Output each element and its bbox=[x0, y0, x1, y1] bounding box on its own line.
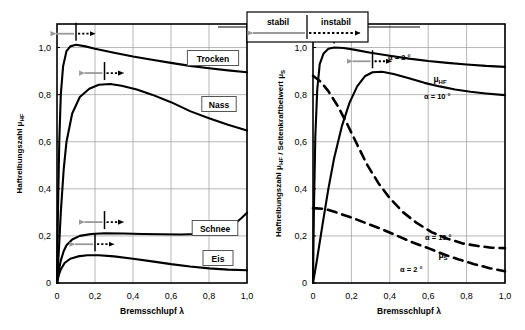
x-tick-label: 1,0 bbox=[499, 291, 512, 301]
x-axis-title: Bremsschlupf λ bbox=[377, 306, 441, 316]
quantity-label-mus: μS bbox=[438, 250, 447, 261]
y-tick-label: 0,2 bbox=[294, 231, 307, 241]
y-axis-title: Haftreibungszahl μHF bbox=[15, 113, 25, 193]
y-tick-label: 1,0 bbox=[38, 43, 51, 53]
series-label-eis: Eis bbox=[212, 254, 225, 264]
y-tick-label: 0,6 bbox=[38, 137, 51, 147]
y-tick-label: 0 bbox=[302, 278, 307, 288]
y-tick-label: 0,8 bbox=[38, 90, 51, 100]
x-tick-label: 0,2 bbox=[89, 291, 102, 301]
x-tick-label: 0,4 bbox=[384, 291, 397, 301]
series-label-schnee: Schnee bbox=[200, 224, 231, 234]
legend-unstable-label: instabil bbox=[321, 17, 351, 27]
tire-friction-slip-figure: 00,20,40,60,81,000,20,40,60,81,0Bremssch… bbox=[0, 0, 525, 330]
x-tick-label: 1,0 bbox=[241, 291, 254, 301]
x-tick-label: 0,6 bbox=[422, 291, 435, 301]
curve--s-10- bbox=[313, 76, 505, 248]
y-tick-label: 1,0 bbox=[294, 43, 307, 53]
y-tick-label: 0 bbox=[46, 278, 51, 288]
x-tick-label: 0,8 bbox=[460, 291, 473, 301]
x-axis-title: Bremsschlupf λ bbox=[120, 306, 184, 316]
series-label-trocken: Trocken bbox=[197, 54, 230, 64]
left-panel: 00,20,40,60,81,000,20,40,60,81,0Bremssch… bbox=[15, 23, 253, 316]
curve--hf-10- bbox=[313, 72, 505, 283]
x-tick-label: 0 bbox=[310, 291, 315, 301]
x-tick-label: 0,8 bbox=[203, 291, 216, 301]
series-label-alpha-10-muhf: α = 10 ° bbox=[424, 92, 451, 101]
y-tick-label: 0,2 bbox=[38, 231, 51, 241]
series-label-nass: Nass bbox=[209, 100, 230, 110]
right-panel: 00,20,40,60,81,000,20,40,60,81,0Bremssch… bbox=[274, 24, 511, 316]
figure-root: 00,20,40,60,81,000,20,40,60,81,0Bremssch… bbox=[0, 0, 525, 330]
x-tick-label: 0,6 bbox=[165, 291, 178, 301]
y-axis-title: Haftreibungszahl μHF / Seitenkraftbeiwer… bbox=[274, 70, 286, 237]
legend-stable-label: stabil bbox=[267, 17, 289, 27]
series-label-alpha-10-mus: α = 10 ° bbox=[425, 233, 452, 242]
quantity-label-muhf: μHF bbox=[433, 74, 447, 85]
curve-trocken bbox=[57, 45, 247, 283]
x-tick-label: 0,4 bbox=[127, 291, 140, 301]
series-label-alpha-2-muhf: α = 2 ° bbox=[388, 53, 410, 62]
x-tick-label: 0,2 bbox=[345, 291, 358, 301]
y-tick-label: 0,4 bbox=[294, 184, 307, 194]
y-tick-label: 0,8 bbox=[294, 90, 307, 100]
y-tick-label: 0,4 bbox=[38, 184, 51, 194]
curve--hf-2- bbox=[313, 48, 505, 283]
y-tick-label: 0,6 bbox=[294, 137, 307, 147]
x-tick-label: 0 bbox=[54, 291, 59, 301]
series-label-alpha-2-mus: α = 2 ° bbox=[400, 265, 422, 274]
plot-frame bbox=[313, 24, 505, 283]
